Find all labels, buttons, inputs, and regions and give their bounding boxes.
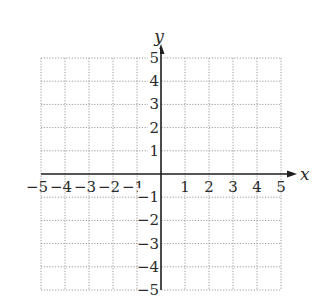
y-tick-label: −2 xyxy=(137,211,159,229)
x-tick-label: −2 xyxy=(98,178,120,196)
x-tick-label: 1 xyxy=(180,178,190,196)
y-tick-label: 1 xyxy=(149,142,159,160)
x-tick-label: −3 xyxy=(74,178,96,196)
x-axis-arrow-icon xyxy=(287,171,297,178)
x-tick-label: 5 xyxy=(276,178,286,196)
x-tick-label: 2 xyxy=(204,178,214,196)
axes xyxy=(41,44,297,290)
x-tick-label: 4 xyxy=(252,178,262,196)
coordinate-plane: −5−4−3−2−112345 −5−4−3−2−112345 x y xyxy=(0,0,325,307)
y-tick-label: −1 xyxy=(137,188,159,206)
y-tick-label: 3 xyxy=(149,95,159,113)
x-axis-label: x xyxy=(300,164,310,184)
y-tick-label: 5 xyxy=(149,49,159,67)
y-axis-label: y xyxy=(153,26,164,46)
x-tick-label: 3 xyxy=(228,178,238,196)
y-tick-label: −4 xyxy=(137,258,159,276)
x-tick-label: −5 xyxy=(26,178,48,196)
y-tick-label: 2 xyxy=(149,119,159,137)
x-tick-label: −4 xyxy=(50,178,72,196)
y-tick-label: 4 xyxy=(149,72,159,90)
y-tick-label: −3 xyxy=(137,235,159,253)
y-tick-label: −5 xyxy=(137,281,159,299)
